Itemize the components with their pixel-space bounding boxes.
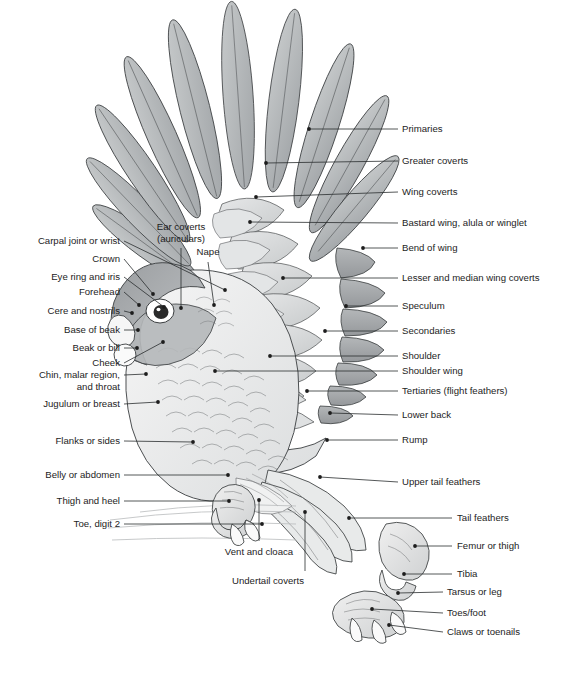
secondaries-group [318,248,387,424]
label-chin-malar-throat: Chin, malar region, and throat [39,369,120,392]
label-forehead: Forehead [79,286,120,298]
leader-dot-tail-feathers [347,516,351,520]
label-ear-coverts: Ear coverts (auriculars) [0,221,470,244]
leader-dot-lesser-median-coverts [281,276,285,280]
label-rump: Rump [402,434,428,446]
label-nape: Nape [0,246,497,258]
leader-dot-cheek [161,340,165,344]
label-undertail-coverts: Undertail coverts [0,575,557,587]
leader-dot-shoulder [268,354,272,358]
leader-dot-secondaries [323,329,327,333]
label-tail-feathers: Tail feathers [457,512,509,524]
leader-dot-greater-coverts [264,161,268,165]
leader-dot-rump [325,438,329,442]
leader-dot-tarsus-or-leg [396,591,400,595]
leader-dot-shoulder-wing [213,369,217,373]
bird-illustration [0,0,577,674]
label-secondaries: Secondaries [402,325,455,337]
leader-dot-thigh-and-heel [227,499,231,503]
label-primaries: Primaries [402,123,443,135]
leader-dot-carpal-joint [223,288,227,292]
label-lesser-median-coverts: Lesser and median wing coverts [402,272,540,284]
leader-dot-undertail-coverts [303,510,307,514]
leader-dot-crown [151,292,155,296]
leader-dot-nape [212,303,216,307]
label-greater-coverts: Greater coverts [402,155,468,167]
leader-dot-primaries [307,127,311,131]
leader-dot-belly-or-abdomen [226,473,230,477]
label-upper-tail-feathers: Upper tail feathers [402,476,480,488]
label-shoulder-wing: Shoulder wing [402,365,463,377]
label-cheek: Cheek [92,357,120,369]
leader-dot-jugulum-or-breast [156,400,160,404]
label-cere-and-nostrils: Cere and nostrils [47,305,120,317]
label-toe-digit-2: Toe, digit 2 [74,518,120,530]
leader-dot-toes-foot [370,607,374,611]
leader-dot-eye-ring-and-iris [162,305,166,309]
leader-dot-chin-malar-throat [144,372,148,376]
leader-dot-vent-and-cloaca [257,498,261,502]
leader-dot-speculum [344,304,348,308]
leader-dot-flanks-or-sides [191,440,195,444]
label-speculum: Speculum [402,300,445,312]
label-tertiaries: Tertiaries (flight feathers) [402,385,508,397]
leader-dot-beak-or-bill [135,346,139,350]
leader-dot-ear-coverts [179,306,183,310]
label-jugulum-or-breast: Jugulum or breast [43,398,120,410]
leader-dot-cere-and-nostrils [130,311,134,315]
label-lower-back: Lower back [402,409,451,421]
label-wing-coverts: Wing coverts [402,186,457,198]
label-claws-or-toenails: Claws or toenails [447,626,520,638]
leader-dot-claws-or-toenails [387,623,391,627]
label-base-of-beak: Base of beak [64,324,120,336]
leader-dot-upper-tail-feathers [318,475,322,479]
leader-dot-lower-back [328,411,332,415]
label-tarsus-or-leg: Tarsus or leg [447,586,502,598]
label-beak-or-bill: Beak or bill [73,342,120,354]
leader-dot-forehead [137,303,141,307]
label-shoulder: Shoulder [402,350,440,362]
leader-dot-toe-digit-2 [260,522,264,526]
label-eye-ring-and-iris: Eye ring and iris [51,271,120,283]
leader-dot-wing-coverts [254,195,258,199]
label-flanks-or-sides: Flanks or sides [55,435,120,447]
leader-line-upper-tail-feathers [320,477,398,482]
anatomy-figure: PrimariesGreater covertsWing covertsBast… [0,0,577,674]
label-vent-and-cloaca: Vent and cloaca [0,546,548,558]
leader-dot-base-of-beak [136,328,140,332]
label-toes-foot: Toes/foot [447,607,486,619]
label-belly-or-abdomen: Belly or abdomen [45,469,120,481]
leader-dot-tertiaries [305,389,309,393]
label-thigh-and-heel: Thigh and heel [57,495,120,507]
tail-feathers-group [254,470,366,574]
